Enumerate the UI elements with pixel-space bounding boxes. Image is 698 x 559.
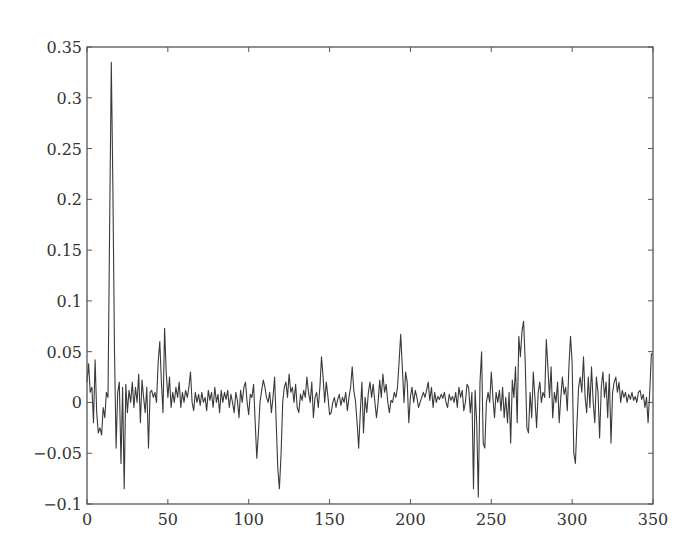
x-tick-label: 100 (233, 510, 264, 529)
y-tick-label: 0.1 (57, 292, 82, 311)
x-tick-label: 300 (557, 510, 588, 529)
x-tick-label: 50 (158, 510, 178, 529)
plot-frame (87, 47, 653, 504)
x-tick-label: 200 (395, 510, 426, 529)
x-tick-label: 150 (314, 510, 345, 529)
y-tick-label: −0.05 (33, 444, 82, 463)
y-tick-label: 0 (72, 393, 82, 412)
x-tick-label: 350 (638, 510, 669, 529)
y-tick-label: 0.05 (46, 343, 82, 362)
x-tick-label: 0 (82, 510, 92, 529)
x-tick-label: 250 (476, 510, 507, 529)
axis-ticks (87, 47, 653, 504)
y-axis-tick-labels: −0.1−0.0500.050.10.150.20.250.30.35 (33, 38, 82, 514)
y-tick-label: 0.35 (46, 38, 82, 57)
y-tick-label: 0.2 (57, 190, 82, 209)
x-axis-tick-labels: 050100150200250300350 (82, 510, 668, 529)
y-tick-label: −0.1 (43, 495, 82, 514)
line-chart: −0.1−0.0500.050.10.150.20.250.30.35 0501… (0, 0, 698, 559)
signal-line (87, 62, 653, 497)
y-tick-label: 0.15 (46, 241, 82, 260)
y-tick-label: 0.25 (46, 140, 82, 159)
y-tick-label: 0.3 (57, 89, 82, 108)
